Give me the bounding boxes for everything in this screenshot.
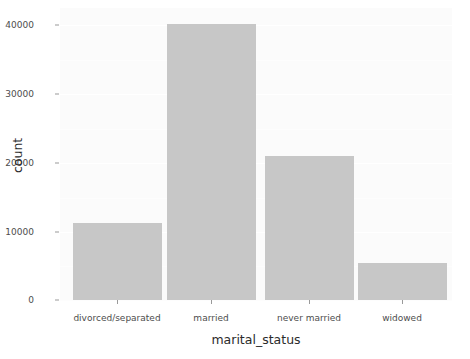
bar-chart: 0 10000 20000 30000 40000 divorced/separ… [0,0,470,359]
gridline-minor-15000 [60,198,452,199]
x-ticklabel-married: married [193,313,228,323]
y-tickmark-20000 [55,163,59,164]
x-tickmark-divorced-separated [117,300,118,304]
y-axis: 0 10000 20000 30000 40000 [0,0,48,359]
x-ticklabel-divorced-separated: divorced/separated [73,313,160,323]
plot-panel [60,8,452,300]
x-tickmark-never-married [309,300,310,304]
y-axis-title: count [10,157,26,173]
bar-divorced-separated [73,223,162,300]
gridline-major-40000 [60,25,452,26]
y-tickmark-10000 [55,232,59,233]
gridline-minor-35000 [60,60,452,61]
gridline-major-20000 [60,163,452,164]
x-ticklabel-widowed: widowed [382,313,422,323]
y-tickmark-40000 [55,25,59,26]
bar-never-married [265,156,354,300]
bar-widowed [358,263,447,300]
y-ticklabel-10000: 10000 [5,227,34,237]
x-axis-title: marital_status [60,332,452,347]
y-ticklabel-0: 0 [28,295,34,305]
gridline-major-30000 [60,94,452,95]
y-ticklabel-40000: 40000 [5,20,34,30]
y-tickmark-30000 [55,94,59,95]
x-tickmark-widowed [402,300,403,304]
x-ticklabel-never-married: never married [277,313,341,323]
y-ticklabel-30000: 30000 [5,89,34,99]
gridline-minor-25000 [60,129,452,130]
y-tickmark-0 [55,300,59,301]
bar-married [167,24,256,301]
x-tickmark-married [211,300,212,304]
